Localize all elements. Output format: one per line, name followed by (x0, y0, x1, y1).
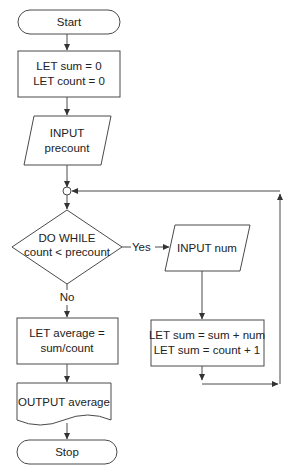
init-process-box: LET sum = 0 LET count = 0 (18, 51, 120, 97)
flowchart: Start LET sum = 0 LET count = 0 INPUT pr… (0, 0, 292, 466)
compute-average-line-2: sum/count (40, 342, 94, 354)
init-line-2: LET count = 0 (33, 75, 105, 87)
input-precount-line-1: INPUT (50, 127, 85, 139)
init-line-1: LET sum = 0 (36, 60, 101, 72)
stop-terminal: Stop (17, 440, 117, 464)
input-num-parallelogram: INPUT num (165, 225, 250, 271)
no-label: No (60, 291, 75, 303)
input-precount-line-2: precount (45, 142, 91, 154)
start-terminal: Start (18, 10, 120, 34)
compute-average-box: LET average = sum/count (17, 318, 118, 364)
compute-average-line-1: LET average = (29, 327, 105, 339)
input-num-label: INPUT num (177, 242, 237, 254)
stop-label: Stop (55, 446, 79, 458)
decision-line-1: DO WHILE (39, 232, 96, 244)
start-label: Start (57, 16, 82, 28)
update-process-box: LET sum = sum + num LET sum = count + 1 (149, 320, 265, 366)
decision-line-2: count < precount (24, 246, 111, 258)
decision-diamond: DO WHILE count < precount (12, 210, 122, 284)
update-line-2: LET sum = count + 1 (154, 344, 261, 356)
yes-label: Yes (132, 241, 151, 253)
update-line-1: LET sum = sum + num (149, 329, 265, 341)
output-average-label: OUTPUT average (18, 396, 110, 408)
output-average-document: OUTPUT average (17, 383, 111, 425)
loop-junction-circle (63, 187, 71, 195)
input-precount-parallelogram: INPUT precount (24, 116, 111, 165)
